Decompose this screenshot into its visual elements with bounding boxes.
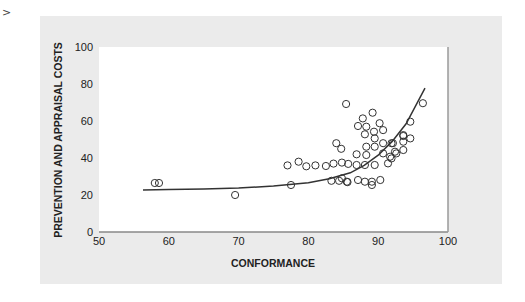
x-tick-label: 60 xyxy=(163,235,175,247)
y-tick-label: 60 xyxy=(81,115,93,127)
plot-area xyxy=(99,47,448,232)
x-tick-label: 100 xyxy=(439,235,457,247)
y-tick-label: 100 xyxy=(75,41,93,53)
x-tick-label: 80 xyxy=(302,235,314,247)
x-axis-label: CONFORMANCE xyxy=(231,257,315,269)
y-tick-label: 80 xyxy=(81,78,93,90)
y-axis-label: PREVENTION AND APPRAISAL COSTS xyxy=(52,42,64,238)
x-tick-label: 50 xyxy=(93,235,105,247)
y-tick-label: 20 xyxy=(81,189,93,201)
y-tick-label: 40 xyxy=(81,152,93,164)
x-tick-label: 90 xyxy=(372,235,384,247)
x-tick-label: 70 xyxy=(232,235,244,247)
